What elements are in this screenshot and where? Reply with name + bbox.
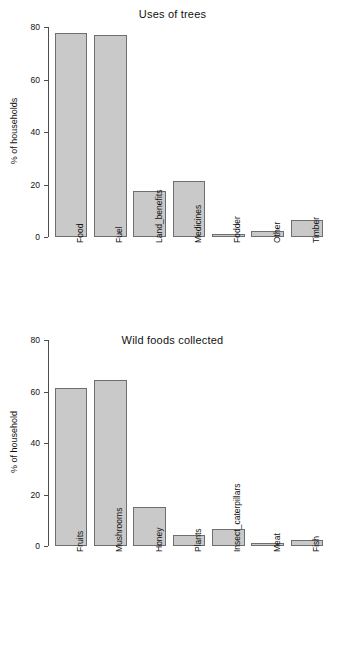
y-axis-tick-label: 80 [18,22,40,32]
x-axis-category-label: Fruits [75,531,85,552]
y-axis-tick-label: 20 [18,490,40,500]
x-axis-category-label: Mushrooms [114,508,124,552]
y-axis-tick-label: 80 [18,335,40,345]
y-axis-tick [44,132,48,133]
y-axis-tick [44,392,48,393]
x-axis-category-label: Food [75,224,85,243]
y-axis-tick [44,546,48,547]
x-axis-category-label: Fodder [232,216,242,243]
y-axis-tick-label: 60 [18,387,40,397]
x-axis-category-label: Plants [193,528,203,552]
x-axis-category-label: Fish [311,536,321,552]
bar [94,35,127,237]
y-axis-tick [44,443,48,444]
y-axis-tick-label: 0 [18,541,40,551]
x-axis-category-label: Other [272,222,282,243]
y-axis-tick [44,495,48,496]
chart-panel-wild-foods-collected: Wild foods collected % of household 0204… [0,330,345,660]
bar [55,33,88,237]
x-axis-category-label: Land_benefits [154,190,164,243]
chart-panel-uses-of-trees: Uses of trees % of households 020406080F… [0,0,345,330]
plot-area-bottom: 020406080FruitsMushroomsHoneyPlantsInsec… [48,340,330,546]
x-axis-category-label: Timber [311,217,321,243]
y-axis-tick [44,185,48,186]
y-axis-tick-label: 60 [18,75,40,85]
y-axis-tick-label: 0 [18,232,40,242]
x-axis-category-label: Meat [272,533,282,552]
y-axis-tick [44,27,48,28]
x-axis-category-label: Insect_caterpillars [232,483,242,552]
y-axis-tick [44,80,48,81]
y-axis-tick [44,237,48,238]
plot-area-top: 020406080FoodFuelLand_benefitsMedicinesF… [48,27,330,237]
bar [55,388,88,546]
x-axis-category-label: Honey [154,527,164,552]
y-axis-tick [44,340,48,341]
chart-title-top: Uses of trees [0,8,345,20]
y-axis-line [48,340,49,546]
y-axis-tick-label: 40 [18,127,40,137]
x-axis-category-label: Medicines [193,205,203,243]
y-axis-tick-label: 40 [18,438,40,448]
y-axis-tick-label: 20 [18,180,40,190]
x-axis-category-label: Fuel [114,226,124,243]
y-axis-line [48,27,49,237]
